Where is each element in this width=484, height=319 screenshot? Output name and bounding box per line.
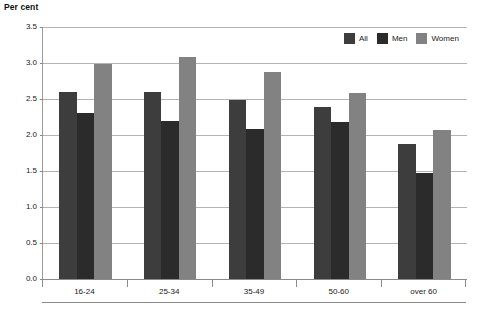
bar (246, 129, 264, 279)
x-axis-bottom-rule (42, 302, 466, 303)
bars-layer (43, 27, 467, 279)
bar (433, 130, 451, 279)
legend-label: Women (431, 35, 458, 43)
legend-item[interactable]: Men (377, 33, 408, 44)
bar (416, 173, 434, 279)
bar (349, 93, 367, 279)
legend-swatch-icon (416, 33, 427, 44)
y-axis-tick-label: 3.0 (4, 59, 37, 67)
bar (398, 144, 416, 279)
y-axis-tick-label: 0.0 (4, 275, 37, 283)
y-axis-tick-label: 2.5 (4, 95, 37, 103)
legend-swatch-icon (377, 33, 388, 44)
y-axis-tick-label: 3.5 (4, 23, 37, 31)
y-axis-tick-label: 2.0 (4, 131, 37, 139)
x-axis-category-label: over 60 (381, 286, 466, 298)
bar (179, 57, 197, 279)
plot-area (42, 27, 466, 279)
legend-swatch-icon (344, 33, 355, 44)
y-axis-tick-label: 1.5 (4, 167, 37, 175)
bar (331, 122, 349, 279)
bar (314, 107, 332, 279)
y-axis-title: Per cent (4, 2, 38, 12)
x-axis-category-label: 25-34 (127, 286, 212, 298)
bar (161, 121, 179, 279)
y-axis-tick-label: 0.5 (4, 239, 37, 247)
bar (94, 64, 112, 279)
bar (59, 92, 77, 279)
bar (229, 100, 247, 279)
legend-label: All (359, 35, 368, 43)
legend: AllMenWomen (344, 33, 459, 44)
x-axis-category-label: 16-24 (42, 286, 127, 298)
y-axis-tick-label: 1.0 (4, 203, 37, 211)
legend-item[interactable]: Women (416, 33, 458, 44)
x-axis-category-label: 50-60 (296, 286, 381, 298)
legend-item[interactable]: All (344, 33, 368, 44)
bar (144, 92, 162, 279)
bar (264, 72, 282, 279)
bar (77, 113, 95, 279)
bar-chart: Per cent 0.00.51.01.52.02.53.03.5 16-242… (0, 0, 484, 319)
legend-label: Men (392, 35, 408, 43)
x-axis-tick-labels: 16-2425-3435-4950-60over 60 (42, 286, 466, 300)
x-axis-category-label: 35-49 (212, 286, 297, 298)
